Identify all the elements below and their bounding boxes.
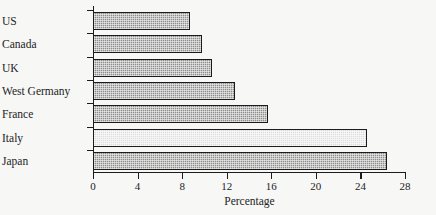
x-axis-line [93, 172, 406, 173]
x-axis-tick [271, 173, 272, 179]
x-axis-tick-label: 28 [390, 180, 420, 192]
y-axis-tick [87, 57, 93, 58]
x-axis-tick [138, 173, 139, 179]
x-axis-tick [227, 173, 228, 179]
x-axis-tick [360, 173, 361, 179]
x-axis-tick [93, 173, 94, 179]
bar-west-germany [93, 82, 235, 100]
y-axis-tick [87, 103, 93, 104]
category-label-italy: Italy [2, 132, 82, 144]
y-axis-tick [87, 10, 93, 11]
x-axis-tick-label: 20 [301, 180, 331, 192]
bar-chart: USCanadaUKWest GermanyFranceItalyJapan 0… [0, 0, 436, 215]
bar-italy [93, 129, 367, 147]
y-axis-tick [87, 150, 93, 151]
bar-uk [93, 59, 212, 77]
x-axis-tick [182, 173, 183, 179]
y-axis-line [93, 6, 94, 173]
y-axis-tick [87, 80, 93, 81]
x-axis-title: Percentage [93, 195, 406, 208]
x-axis-tick [316, 173, 317, 179]
y-axis-category-labels: USCanadaUKWest GermanyFranceItalyJapan [0, 0, 88, 175]
category-label-us: US [2, 15, 82, 27]
x-axis-tick [405, 173, 406, 179]
x-axis-tick-label: 4 [123, 180, 153, 192]
plot-area [93, 6, 405, 173]
x-axis-tick-label: 0 [78, 180, 108, 192]
x-axis-tick-label: 24 [345, 180, 375, 192]
category-label-uk: UK [2, 62, 82, 74]
bar-france [93, 105, 268, 123]
x-axis-tick-label: 8 [167, 180, 197, 192]
x-axis-tick-label: 12 [212, 180, 242, 192]
category-label-france: France [2, 108, 82, 120]
y-axis-tick [87, 33, 93, 34]
category-label-japan: Japan [2, 155, 82, 167]
category-label-west-germany: West Germany [2, 85, 82, 97]
bar-japan [93, 152, 387, 170]
bar-us [93, 12, 190, 30]
bar-canada [93, 35, 202, 53]
y-axis-tick [87, 127, 93, 128]
x-axis-tick-label: 16 [256, 180, 286, 192]
category-label-canada: Canada [2, 38, 82, 50]
